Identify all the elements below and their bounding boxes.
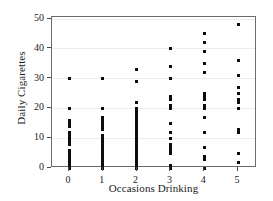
data-point	[237, 101, 240, 104]
data-point	[203, 131, 206, 134]
data-point	[203, 95, 206, 98]
data-point	[101, 146, 104, 149]
data-point	[237, 74, 240, 77]
data-point	[101, 107, 104, 110]
data-point	[237, 92, 240, 95]
plot-area	[51, 16, 256, 167]
data-point	[169, 104, 172, 107]
data-point	[237, 128, 240, 131]
data-point	[135, 152, 138, 155]
data-point	[237, 86, 240, 89]
data-point	[135, 110, 138, 113]
y-tick-label-10: 10	[4, 132, 44, 142]
gridline-y-50	[52, 19, 255, 20]
y-tick-label-50: 50	[4, 13, 44, 23]
data-point	[135, 128, 138, 131]
data-point	[169, 98, 172, 101]
data-point	[169, 77, 172, 80]
y-tick-mark-20	[47, 107, 51, 108]
data-point	[135, 134, 138, 137]
data-point	[169, 47, 172, 50]
data-point	[135, 101, 138, 104]
data-point	[101, 77, 104, 80]
data-point	[135, 107, 138, 110]
data-point	[68, 107, 71, 110]
data-point	[68, 152, 71, 155]
data-point	[68, 119, 71, 122]
data-point	[101, 161, 104, 164]
data-point	[237, 152, 240, 155]
gridline-y-30	[52, 78, 255, 79]
data-point	[68, 77, 71, 80]
data-point	[237, 59, 240, 62]
x-axis-label: Occasions Drinking	[51, 182, 256, 195]
data-point	[237, 107, 240, 110]
data-point	[101, 128, 104, 131]
data-point	[203, 107, 206, 110]
data-point	[68, 143, 71, 146]
data-point	[135, 155, 138, 158]
y-tick-label-20: 20	[4, 102, 44, 112]
data-point	[135, 146, 138, 149]
data-point	[135, 143, 138, 146]
gridline-y-20	[52, 108, 255, 109]
data-point	[101, 158, 104, 161]
data-point	[169, 107, 172, 110]
x-tick-mark-1	[102, 167, 103, 171]
data-point	[68, 122, 71, 125]
data-point	[203, 98, 206, 101]
data-point	[101, 140, 104, 143]
data-point	[169, 143, 172, 146]
scatter-plot-figure: Daily Cigarettes 01020304050 012345 Occa…	[0, 0, 273, 201]
data-point	[135, 113, 138, 116]
data-point	[135, 122, 138, 125]
y-tick-mark-10	[47, 137, 51, 138]
data-point	[203, 32, 206, 35]
data-point	[101, 155, 104, 158]
data-point	[101, 116, 104, 119]
data-point	[203, 50, 206, 53]
data-point	[237, 161, 240, 164]
data-point	[101, 134, 104, 137]
data-point	[169, 137, 172, 140]
data-point	[101, 122, 104, 125]
gridline-y-10	[52, 138, 255, 139]
data-point	[135, 140, 138, 143]
x-tick-mark-5	[237, 167, 238, 171]
data-point	[68, 149, 71, 152]
y-axis-label: Daily Cigarettes	[14, 8, 28, 168]
x-tick-mark-3	[169, 167, 170, 171]
data-point	[135, 131, 138, 134]
data-point	[68, 140, 71, 143]
data-point	[203, 146, 206, 149]
data-point	[68, 155, 71, 158]
data-point	[169, 149, 172, 152]
data-point	[135, 116, 138, 119]
data-point	[169, 122, 172, 125]
data-point	[237, 98, 240, 101]
data-point	[203, 104, 206, 107]
data-point	[68, 131, 71, 134]
y-tick-label-30: 30	[4, 73, 44, 83]
x-tick-mark-0	[68, 167, 69, 171]
data-point	[135, 137, 138, 140]
data-point	[237, 131, 240, 134]
data-point	[101, 152, 104, 155]
data-point	[237, 23, 240, 26]
data-point	[135, 161, 138, 164]
data-point	[203, 155, 206, 158]
data-point	[169, 95, 172, 98]
data-point	[135, 158, 138, 161]
gridline-y-40	[52, 48, 255, 49]
data-point	[101, 143, 104, 146]
y-tick-mark-50	[47, 18, 51, 19]
y-tick-mark-0	[47, 167, 51, 168]
data-point	[68, 137, 71, 140]
data-point	[135, 119, 138, 122]
data-point	[169, 146, 172, 149]
data-point	[203, 116, 206, 119]
data-point	[135, 80, 138, 83]
data-point	[135, 149, 138, 152]
data-point	[68, 125, 71, 128]
data-point	[101, 125, 104, 128]
